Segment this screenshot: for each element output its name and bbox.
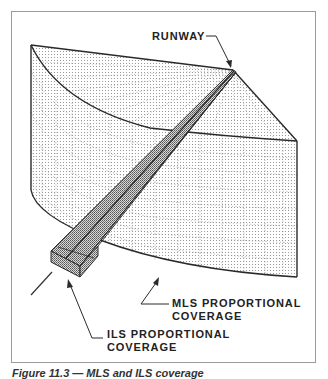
ils-leader <box>69 282 103 338</box>
figure-caption: Figure 11.3 — MLS and ILS coverage <box>12 367 204 379</box>
ils-label-line2: COVERAGE <box>107 341 177 354</box>
approach-line <box>31 272 52 295</box>
mls-label-line1: MLS PROPORTIONAL <box>172 297 301 310</box>
ils-label-line1: ILS PROPORTIONAL <box>107 328 230 341</box>
mls-label-line2: COVERAGE <box>172 310 242 323</box>
ils-arrowhead <box>67 279 73 288</box>
runway-arrowhead <box>226 60 232 68</box>
runway-label: RUNWAY <box>152 30 205 43</box>
mls-arrowhead <box>153 277 159 286</box>
